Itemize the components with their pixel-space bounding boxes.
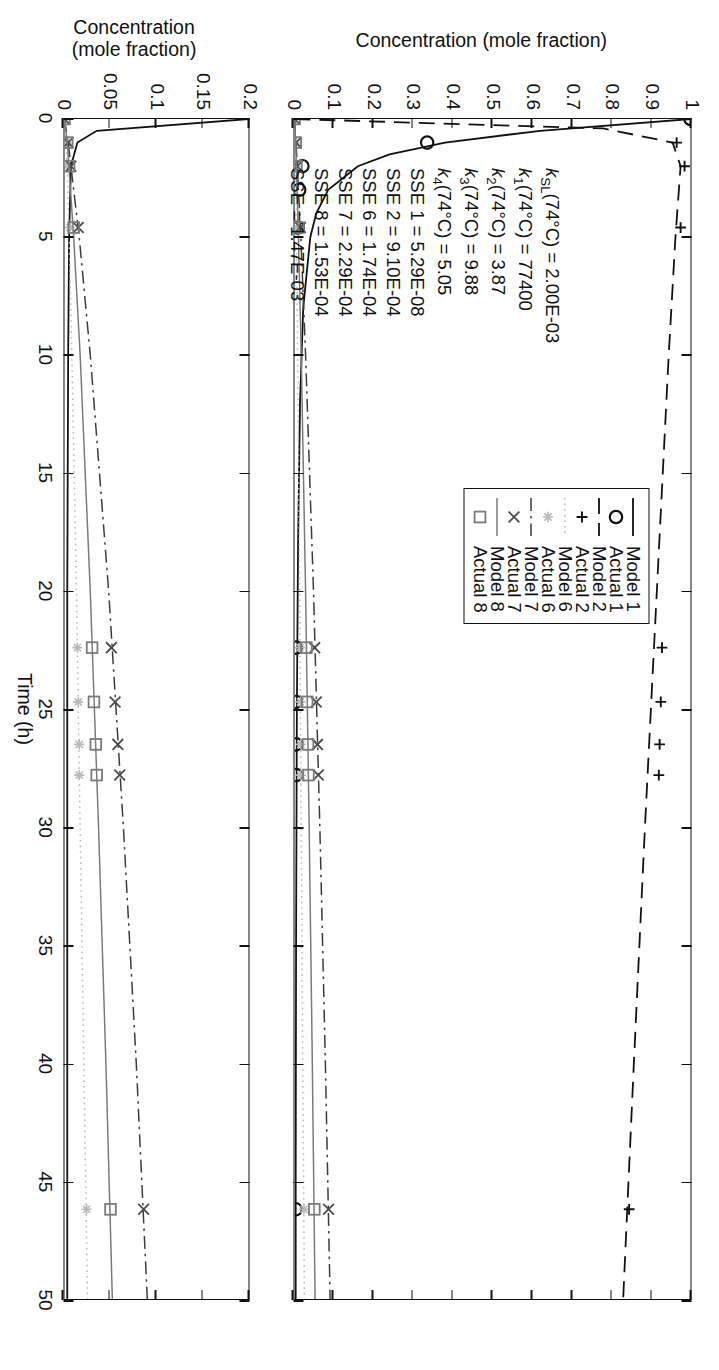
legend-key-dashdot-line [522,497,539,537]
annotation-text: (74°C) = 3.87 [487,185,508,296]
asterisk-marker [74,739,84,749]
parameter-annotation-block: kSL(74°C) = 2.00E-03k1(74°C) = 77400k2(7… [284,168,563,343]
y-tick [331,118,333,128]
y-tick [201,1290,203,1300]
legend-key-cross-marker [505,497,522,537]
y-tick [61,1290,63,1300]
x-tick [63,591,73,593]
x-tick [681,236,691,238]
legend-label: Model 8 [488,546,505,613]
y-tick-label: 0.2 [238,62,260,110]
data-point-group [64,119,115,1215]
x-tick [239,591,249,593]
y-axis-title-top: Concentration (mole fraction) [271,29,691,51]
legend-label: Actual 2 [573,546,590,613]
y-tick [610,118,612,128]
x-tick [681,1064,691,1066]
y-axis-title-bottom-line2: (mole fraction) [71,38,196,60]
annotation-line: k2(74°C) = 3.87 [482,168,509,343]
legend-key-asterisk-marker [539,497,556,537]
x-tick [63,945,73,947]
legend-key-circle-marker [607,497,624,537]
x-tick [63,354,73,356]
asterisk-marker [81,1204,91,1214]
y-tick [108,1290,110,1300]
y-tick [61,118,63,128]
x-tick-label: 10 [33,344,55,365]
legend-label: Model 6 [556,546,573,613]
asterisk-marker [74,770,84,780]
x-tick [239,354,249,356]
x-tick [239,1300,249,1302]
legend-key-dashed-line [590,497,607,537]
asterisk-marker [542,512,552,522]
x-tick-label: 25 [33,698,55,719]
annotation-text: SSE 7 = 2.29E-04 [334,168,355,317]
x-tick [293,1182,303,1184]
parameter-subscript: 3 [456,177,471,184]
parameter-subscript: 4 [429,177,444,184]
y-tick-label: 0.9 [640,62,662,110]
y-tick [610,1290,612,1300]
legend-label: Model 2 [590,546,607,613]
y-tick [451,118,453,128]
plus-marker [623,1204,634,1215]
y-tick-label: 0.4 [441,62,463,110]
annotation-text: (74°C) = 77400 [514,185,535,311]
plus-marker [576,512,587,523]
legend-label: Actual 8 [471,546,488,613]
legend-label: Model 7 [522,546,539,613]
x-tick [681,1182,691,1184]
annotation-line: k1(74°C) = 77400 [509,168,536,343]
x-tick-label: 45 [33,1171,55,1192]
x-tick-label: 0 [33,113,55,124]
annotation-text: (74°C) = 2.00E-03 [541,194,562,344]
x-axis-title: Time (h) [12,673,35,745]
y-tick [291,118,293,128]
cross-marker [112,739,123,750]
bottom-plot-area [64,119,248,1299]
y-tick-label: 0.5 [481,62,503,110]
y-tick [530,118,532,128]
y-tick [689,118,691,128]
x-tick [63,473,73,475]
y-tick [331,1290,333,1300]
legend-key-solid-black-line [624,497,641,537]
annotation-line: SSE 6 = 1.74E-04 [356,168,380,343]
annotation-text: SSE 6 = 1.74E-04 [358,168,379,317]
series-layer [64,119,248,1299]
x-tick [239,1182,249,1184]
annotation-line: kSL(74°C) = 2.00E-03 [536,168,563,343]
parameter-symbol: k2 [487,168,508,185]
y-tick [411,1290,413,1300]
x-tick [681,709,691,711]
x-tick [63,827,73,829]
y-tick-label: 0.3 [401,62,423,110]
parameter-symbol: k3 [460,168,481,185]
y-tick [154,1290,156,1300]
y-tick-label: 0.2 [362,62,384,110]
cross-marker [106,642,117,653]
cross-marker [508,512,519,523]
parameter-subscript: 1 [510,177,525,184]
y-tick [689,1290,691,1300]
x-tick [239,945,249,947]
x-tick [63,236,73,238]
y-tick [570,118,572,128]
x-tick [293,1064,303,1066]
y-tick-label: 0 [52,62,74,110]
parameter-subscript: 2 [483,177,498,184]
square-marker [474,512,485,523]
asterisk-marker [294,643,304,653]
plus-marker [655,697,666,708]
x-tick [63,709,73,711]
annotation-text: (74°C) = 5.05 [433,185,454,296]
parameter-symbol: k4 [433,168,454,185]
x-tick [681,1300,691,1302]
x-tick-label: 30 [33,817,55,838]
cross-marker [109,697,120,708]
y-tick-label: 0.7 [561,62,583,110]
legend-key-square-marker [471,497,488,537]
y-tick-label: 0.8 [600,62,622,110]
x-tick [239,827,249,829]
